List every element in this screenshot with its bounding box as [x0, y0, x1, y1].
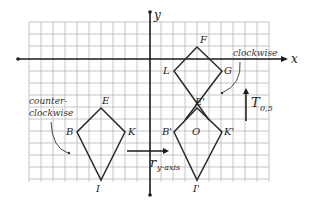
counterclockwise-arrow-head [68, 152, 70, 154]
vertex-label-E: E [101, 95, 110, 106]
vertex-label-K-prime: K' [223, 126, 234, 137]
y-axis-bottom-end [148, 193, 152, 197]
origin-label-O: O [192, 126, 200, 137]
x-axis-label: x [291, 52, 298, 66]
counterclockwise-note-line2: clockwise [29, 108, 73, 118]
vertex-label-G: G [224, 65, 232, 76]
counterclockwise-note-line1: counter- [29, 96, 67, 106]
vertex-label-F: F [199, 34, 208, 45]
clockwise-note: clockwise [233, 48, 277, 58]
translation-subscript: 0,5 [260, 104, 273, 113]
vertex-label-L: L [162, 65, 170, 76]
vertex-label-K: K [127, 126, 136, 137]
x-axis-arrow-icon [281, 56, 288, 62]
y-axis-top-end [148, 10, 152, 14]
y-axis-label: y [153, 8, 161, 22]
vertex-label-I-prime: I' [192, 183, 200, 194]
coordinate-diagram: x y E B K I counter- clockwise E' B' K' … [0, 0, 312, 205]
reflection-arrow-head-icon [163, 148, 169, 154]
reflection-subscript: y-axis [156, 163, 180, 172]
vertex-label-B: B [65, 126, 73, 137]
clockwise-arrow-head [221, 92, 223, 94]
vertex-label-I: I [95, 183, 101, 194]
x-axis-left-end [16, 57, 20, 61]
translation-arrow-head-icon [243, 88, 249, 94]
reflection-symbol: r [150, 155, 157, 170]
vertex-label-B-prime: B' [161, 126, 172, 137]
